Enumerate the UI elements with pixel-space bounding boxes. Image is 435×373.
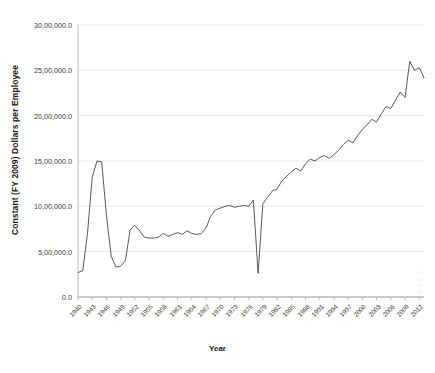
- plot-area: [0, 0, 435, 373]
- data-series-line: [78, 61, 424, 273]
- line-chart: Constant (FY 2009) Dollars per Employee …: [0, 0, 435, 373]
- gridlines: [78, 25, 424, 297]
- watermark: CSIS: [416, 271, 423, 295]
- x-axis-title: Year: [0, 344, 435, 353]
